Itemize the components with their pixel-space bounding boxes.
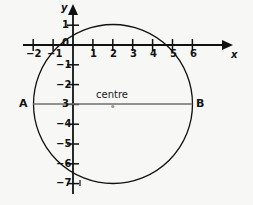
y-tick-label--7: −7 [56, 178, 71, 188]
centre-point-marker [111, 105, 114, 108]
y-tick-label--6: −6 [56, 159, 71, 169]
x-tick-label-5: 5 [170, 49, 177, 59]
y-tick-label--5: −5 [56, 139, 71, 149]
y-tick-label--3: 3 [62, 99, 69, 109]
centre-label: centre [96, 90, 128, 100]
x-tick-label--2: −2 [26, 49, 41, 59]
plot-area [0, 0, 253, 205]
y-axis-arrow [68, 4, 78, 15]
y-tick-label--4: −4 [56, 119, 71, 129]
x-tick-label-4: 4 [150, 49, 157, 59]
x-tick-label-3: 3 [130, 49, 137, 59]
x-tick-label-2: 2 [110, 49, 117, 59]
point-label-a: A [19, 98, 28, 109]
x-tick-label-6: 6 [190, 49, 197, 59]
y-tick-label--2: −2 [56, 80, 71, 90]
y-tick-label-1: 1 [62, 20, 69, 30]
y-tick-label-0: 0 [62, 38, 69, 48]
x-tick-label--1: −1 [47, 49, 62, 59]
x-axis-label: x [231, 50, 237, 60]
circle-graph-figure: y x −2 −1 1 2 3 4 5 6 1 0 −1 −2 3 −4 −5 … [0, 0, 253, 205]
y-tick-label--1: −1 [56, 60, 71, 70]
point-label-b: B [196, 98, 204, 109]
x-tick-label-1: 1 [90, 49, 97, 59]
y-axis-label: y [61, 3, 68, 13]
